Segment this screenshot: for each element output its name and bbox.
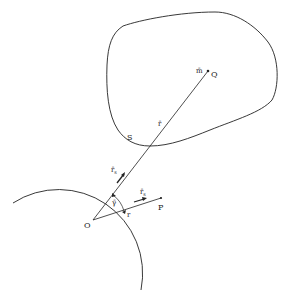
label-vector-rs: r̄s [111,166,117,175]
body-outline [107,12,277,146]
label-angle: γ̄ [112,199,116,207]
label-vector-r: r̄ [158,120,162,128]
point-p-dot [160,197,162,199]
point-q-dot [207,70,210,73]
label-q: Q [211,70,218,79]
label-s: S [127,133,132,142]
label-p: P [158,203,164,212]
unit-rs-arrow-op [134,199,144,202]
label-mass: m̄ [196,67,203,75]
line-oq [93,71,208,220]
arrowhead-icon [142,197,147,201]
label-r: r [127,211,131,219]
diagram: m̄ Q r̄ S r̄s γ̄ O r r̄s P [0,0,288,300]
sphere-arc [13,190,143,290]
label-unit-rs: r̄s [140,188,146,197]
label-o: O [84,221,91,230]
angle-arrow-icon [112,193,116,197]
